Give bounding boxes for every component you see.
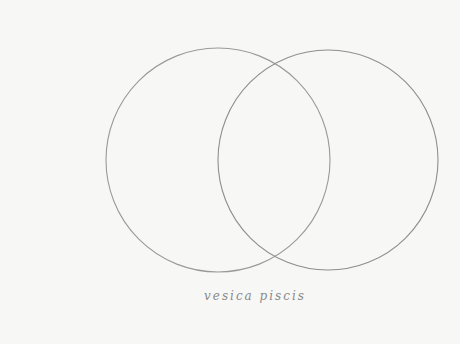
caption: vesica piscis bbox=[0, 289, 460, 303]
